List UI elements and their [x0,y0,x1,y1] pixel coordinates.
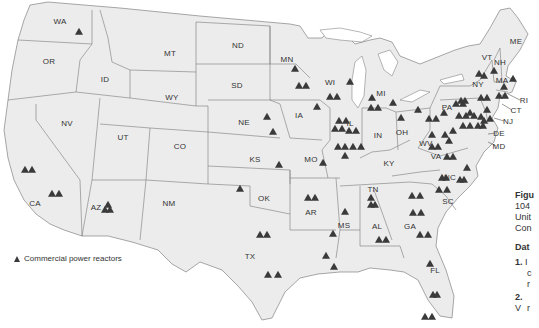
reactor-triangle-icon [466,109,474,116]
reactor-triangle-icon [442,174,450,181]
reactor-triangle-icon [357,143,365,150]
question-1-line-3: r [527,279,530,290]
caption-line-3: Con [515,223,539,234]
state-label-fl: FL [430,266,440,275]
reactor-triangle-icon [28,166,36,173]
state-label-ms: MS [338,221,350,230]
state-label-vt: VT [482,53,493,62]
reactor-triangle-icon [428,313,436,320]
question-1-number: 1. [515,257,523,267]
reactor-triangle-icon [460,176,468,183]
reactor-triangle-icon [330,263,338,270]
state-label-ks: KS [249,155,260,164]
reactor-triangle-icon [486,115,494,122]
state-label-me: ME [510,37,522,46]
state-label-co: CO [174,142,186,151]
state-label-or: OR [43,57,55,66]
reactor-triangle-icon [269,128,277,135]
reactor-triangle-icon [490,67,498,74]
state-label-va: VA [431,152,441,161]
reactor-triangle-icon [313,103,321,110]
state-label-tx: TX [245,252,256,261]
reactor-triangle-icon [263,231,271,238]
state-label-mo: MO [304,155,317,164]
reactor-triangle-icon [329,230,337,237]
reactor-triangle-icon [408,192,416,199]
state-label-sd: SD [231,81,243,90]
reactor-triangle-icon [440,109,448,116]
reactor-triangle-icon [352,127,360,134]
legend-label: Commercial power reactors [24,254,122,263]
question-1: 1. I [515,257,528,268]
reactor-triangle-icon [349,143,357,150]
state-label-nm: NM [163,199,176,208]
reactor-triangle-icon [104,201,112,208]
reactor-triangle-icon [341,208,349,215]
reactor-triangle-icon [477,113,485,120]
state-label-ut: UT [117,133,128,142]
reactor-triangle-icon [346,78,354,85]
reactor-triangle-icon [409,209,417,216]
reactor-triangle-icon [433,291,441,298]
reactor-triangle-icon [342,117,350,124]
state-label-ok: OK [258,194,270,203]
triangle-reactor-icon [14,256,20,262]
state-label-ga: GA [404,222,416,231]
reactor-triangle-icon [371,201,379,208]
reactor-triangle-icon [368,94,376,101]
reactor-triangle-icon [434,143,442,150]
reactor-triangle-icon [414,106,422,113]
reactor-triangle-icon [341,152,349,159]
reactor-triangle-icon [426,260,434,267]
reactor-triangle-icon [509,75,517,82]
reactor-triangle-icon [263,113,271,120]
map-legend: Commercial power reactors [14,254,122,263]
reactor-triangle-icon [341,143,349,150]
state-label-md: MD [493,142,506,151]
state-label-ca: CA [29,199,41,208]
question-1-line-2: c [527,268,532,279]
reactor-triangle-icon [55,190,63,197]
reactor-triangle-icon [274,271,282,278]
reactor-triangle-icon [500,83,508,90]
reactor-triangle-icon [367,194,375,201]
reactor-triangle-icon [374,104,382,111]
state-label-ar: AR [305,208,317,217]
state-label-mi: MI [376,89,385,98]
figure-caption: Figu 104 Unit Con [515,190,539,234]
reactor-triangle-icon [236,185,244,192]
state-label-mn: MN [281,55,294,64]
reactor-triangle-icon [397,114,405,121]
question-1-text: I [525,257,528,267]
reactor-triangle-icon [449,127,457,134]
state-label-sc: SC [442,197,454,206]
reactor-triangle-icon [416,231,424,238]
reactor-triangle-icon [302,82,310,89]
state-label-wi: WI [325,78,335,87]
state-label-ne: NE [238,118,250,127]
reactor-triangle-icon [435,186,443,193]
reactor-triangle-icon [311,194,319,201]
reactor-triangle-icon [428,131,436,138]
state-label-al: AL [372,222,382,231]
reactor-triangle-icon [417,209,425,216]
reactor-triangle-icon [75,28,83,35]
state-label-ct: CT [510,106,521,115]
reactor-triangle-icon [264,271,272,278]
reactor-triangle-icon [275,161,283,168]
state-label-az: AZ [91,203,102,212]
reactor-triangle-icon [501,92,509,99]
state-label-de: DE [493,129,505,138]
reactor-triangle-icon [389,99,397,106]
state-label-wy: WY [165,93,178,102]
reactor-triangle-icon [483,106,491,113]
question-2-line-2: r [527,303,530,314]
state-label-ky: KY [383,159,394,168]
state-label-oh: OH [396,128,408,137]
state-label-nv: NV [61,119,73,128]
reactor-triangle-icon [424,231,432,238]
reactor-triangle-icon [483,94,491,101]
reactor-triangle-icon [319,159,327,166]
state-label-ia: IA [295,111,303,120]
